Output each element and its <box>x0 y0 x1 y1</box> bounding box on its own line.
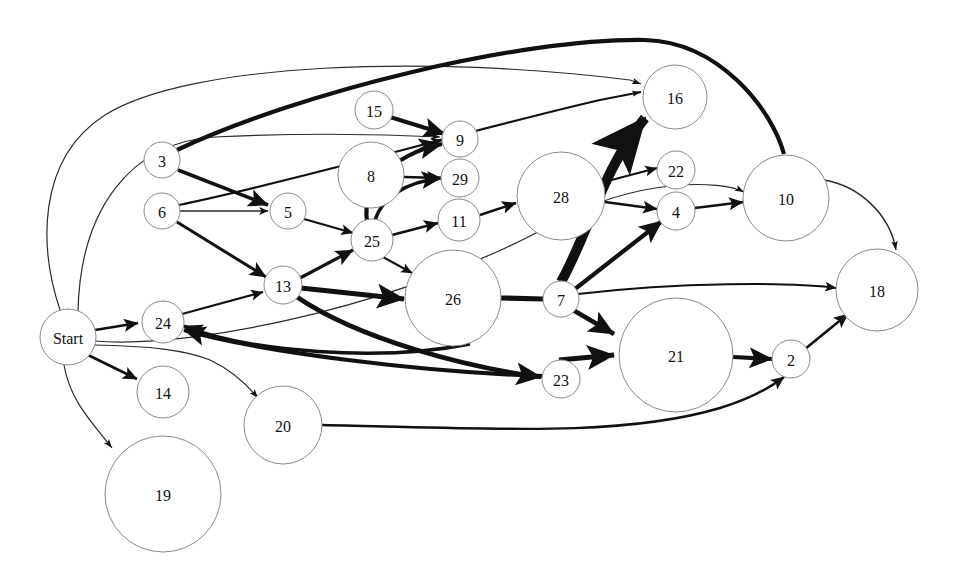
edge-5-to-25 <box>304 219 353 233</box>
edge-13-to-25 <box>300 250 353 278</box>
edge-Start-to-19 <box>64 365 112 448</box>
node-label-10: 10 <box>778 191 794 208</box>
graph-node-16[interactable]: 16 <box>643 65 707 129</box>
node-label-14: 14 <box>155 385 171 402</box>
node-label-23: 23 <box>553 372 569 389</box>
graph-node-25[interactable]: 25 <box>351 219 393 261</box>
graph-diagram-canvas: Start36513241419202581592911262328716224… <box>0 0 972 584</box>
node-label-8: 8 <box>367 168 375 185</box>
edge-8-to-29 <box>404 177 441 178</box>
node-label-5: 5 <box>284 204 292 221</box>
node-label-19: 19 <box>155 487 171 504</box>
graph-node-21[interactable]: 21 <box>619 298 733 412</box>
edge-23-to-21 <box>559 355 614 360</box>
graph-node-24[interactable]: 24 <box>142 301 184 343</box>
edge-28-to-4 <box>605 202 657 209</box>
graph-node-Start[interactable]: Start <box>40 309 96 365</box>
edge-24-to-13 <box>182 292 263 314</box>
graph-node-5[interactable]: 5 <box>270 193 306 229</box>
edge-25-to-11 <box>392 223 438 235</box>
node-label-22: 22 <box>668 163 684 180</box>
node-label-20: 20 <box>275 418 291 435</box>
node-label-29: 29 <box>452 171 468 188</box>
node-label-28: 28 <box>553 189 569 206</box>
node-label-Start: Start <box>53 330 84 347</box>
graph-node-23[interactable]: 23 <box>542 360 580 398</box>
graph-svg: Start36513241419202581592911262328716224… <box>0 0 972 584</box>
graph-node-14[interactable]: 14 <box>137 366 189 418</box>
edge-11-to-28 <box>480 203 516 215</box>
edge-21-to-2 <box>733 357 772 359</box>
node-label-16: 16 <box>667 90 683 107</box>
node-label-11: 11 <box>451 213 466 230</box>
graph-node-19[interactable]: 19 <box>105 436 221 552</box>
node-label-7: 7 <box>557 292 565 309</box>
graph-node-6[interactable]: 6 <box>144 193 180 229</box>
edge-Start-to-14 <box>88 355 137 379</box>
graph-node-9[interactable]: 9 <box>442 121 478 157</box>
node-label-13: 13 <box>275 278 291 295</box>
node-label-4: 4 <box>672 204 680 221</box>
graph-node-18[interactable]: 18 <box>836 249 918 331</box>
edge-6-to-13 <box>177 222 266 277</box>
edge-26-to-7 <box>501 298 543 299</box>
graph-node-29[interactable]: 29 <box>441 159 479 197</box>
graph-node-26[interactable]: 26 <box>405 250 501 346</box>
node-label-21: 21 <box>668 348 684 365</box>
graph-node-3[interactable]: 3 <box>144 142 180 178</box>
edge-4-to-10 <box>695 202 743 208</box>
node-label-25: 25 <box>364 233 380 250</box>
edge-15-to-9 <box>390 117 445 134</box>
graph-node-28[interactable]: 28 <box>517 152 605 240</box>
edge-2-to-18 <box>805 314 848 349</box>
graph-node-20[interactable]: 20 <box>244 386 322 464</box>
node-label-2: 2 <box>787 352 795 369</box>
graph-node-2[interactable]: 2 <box>772 340 810 378</box>
node-label-18: 18 <box>869 283 885 300</box>
graph-node-4[interactable]: 4 <box>657 192 695 230</box>
node-label-9: 9 <box>456 132 464 149</box>
node-label-6: 6 <box>158 204 166 221</box>
graph-node-11[interactable]: 11 <box>438 199 480 241</box>
edge-7-to-21 <box>573 310 614 334</box>
edge-25-to-26 <box>383 257 412 273</box>
edge-10-to-18 <box>824 180 896 250</box>
graph-node-22[interactable]: 22 <box>657 151 695 189</box>
graph-node-8[interactable]: 8 <box>338 142 404 208</box>
edge-Start-to-24 <box>95 323 138 330</box>
nodes-layer: Start36513241419202581592911262328716224… <box>40 65 918 552</box>
graph-node-13[interactable]: 13 <box>264 266 302 304</box>
node-label-24: 24 <box>155 315 171 332</box>
graph-node-7[interactable]: 7 <box>543 281 579 317</box>
graph-node-15[interactable]: 15 <box>355 91 393 129</box>
node-label-15: 15 <box>366 103 382 120</box>
node-label-3: 3 <box>158 153 166 170</box>
node-label-26: 26 <box>445 291 461 308</box>
graph-node-10[interactable]: 10 <box>743 155 829 241</box>
edge-7-to-18 <box>578 284 836 294</box>
edge-13-to-26 <box>301 288 404 299</box>
